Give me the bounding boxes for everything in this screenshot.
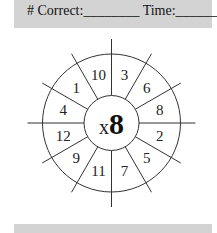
wheel-number: 10 <box>91 67 106 83</box>
wheel-number: 12 <box>56 128 71 144</box>
wheel-number: 3 <box>121 67 129 83</box>
footer-band <box>14 224 212 233</box>
wheel-number: 2 <box>156 128 164 144</box>
wheel-number: 7 <box>121 163 129 179</box>
wheel-number: 6 <box>143 80 151 96</box>
wheel-number: 4 <box>59 102 67 118</box>
wheel-number: 8 <box>156 102 164 118</box>
wheel-number: 11 <box>91 163 105 179</box>
wheel-number: 1 <box>72 80 80 96</box>
wheel-number: 5 <box>143 150 151 166</box>
multiplication-wheel: x8 368257119124110 <box>0 0 217 233</box>
wheel-number: 9 <box>72 150 80 166</box>
